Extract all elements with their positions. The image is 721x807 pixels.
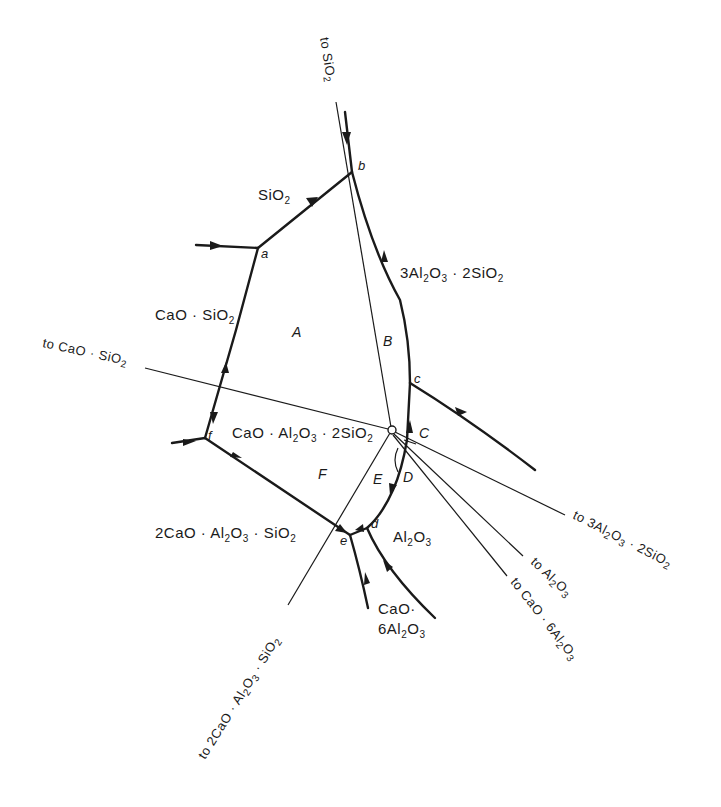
- point-label-a: a: [261, 246, 268, 261]
- label-to-mullite: to 3Al2O3 · 2SiO2: [570, 507, 675, 572]
- arrow-left-to-a: [210, 241, 223, 250]
- tie-line-labels: to SiO2 to CaO · SiO2 to 3Al2O3 · 2SiO2 …: [41, 36, 675, 763]
- tie-line-to-ca6: [393, 435, 507, 576]
- point-label-e: e: [340, 533, 347, 548]
- region-label-f: F: [318, 466, 328, 482]
- phase-label-anorthite: CaO · Al2O3 · 2SiO2: [232, 424, 373, 444]
- phase-label-ca6-line2: 6Al2O3: [378, 620, 425, 640]
- region-label-b: B: [383, 333, 392, 349]
- curve-a-to-f: [205, 248, 258, 438]
- point-label-f: f: [208, 428, 213, 443]
- curve-b-to-a: [258, 172, 352, 248]
- phase-label-corundum: Al2O3: [393, 528, 432, 548]
- phase-label-wollastonite: CaO · SiO2: [155, 306, 235, 326]
- region-label-c: C: [419, 425, 430, 441]
- phase-diagram: a b c d e f A B C D E F SiO2 3Al2O3 · 2S…: [0, 0, 721, 807]
- point-label-b: b: [358, 158, 365, 173]
- label-to-sio2: to SiO2: [315, 36, 339, 83]
- region-label-e: E: [373, 471, 383, 487]
- anorthite-composition-point: [388, 426, 396, 434]
- label-to-ca6: to CaO · 6Al2O3: [506, 575, 581, 664]
- phase-label-gehlenite: 2CaO · Al2O3 · SiO2: [155, 524, 296, 544]
- region-label-a: A: [291, 324, 301, 340]
- phase-label-mullite: 3Al2O3 · 2SiO2: [400, 264, 504, 284]
- arrow-f-e-up: [230, 452, 242, 458]
- arrow-d-curve-down: [389, 483, 397, 495]
- curve-c-to-d: [367, 383, 410, 528]
- phase-labels: SiO2 3Al2O3 · 2SiO2 CaO · SiO2 CaO · Al2…: [155, 186, 504, 640]
- arrow-a-f-up: [221, 362, 229, 373]
- arrow-mullite-up: [381, 250, 388, 262]
- region-label-d: D: [403, 469, 413, 485]
- region-d-hook: [395, 448, 398, 472]
- curve-f-to-e: [205, 438, 350, 535]
- arrow-d-to-e: [355, 524, 364, 532]
- phase-label-ca6-line1: CaO·: [378, 600, 416, 617]
- curve-left-to-a: [196, 245, 258, 248]
- tie-line-to-mullite: [395, 432, 565, 515]
- label-to-gehlenite: to 2CaO · Al2O3 · SiO2: [195, 633, 285, 762]
- tie-line-to-cao-sio2: [145, 368, 388, 429]
- arrow-e-up: [364, 572, 370, 585]
- invariant-point-labels: a b c d e f: [208, 158, 421, 548]
- point-label-d: d: [371, 516, 379, 531]
- label-to-cao-sio2: to CaO · SiO2: [41, 335, 129, 370]
- curve-e-down: [350, 535, 368, 608]
- phase-label-sio2: SiO2: [258, 186, 291, 206]
- point-label-c: c: [414, 371, 421, 386]
